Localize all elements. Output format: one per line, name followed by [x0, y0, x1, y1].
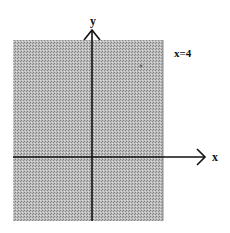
- scan-speck: [140, 65, 143, 68]
- x-axis-label: x: [212, 150, 218, 164]
- coordinate-plane: y x x=4: [0, 0, 230, 233]
- boundary-label: x=4: [174, 47, 192, 59]
- y-axis-label: y: [90, 14, 96, 28]
